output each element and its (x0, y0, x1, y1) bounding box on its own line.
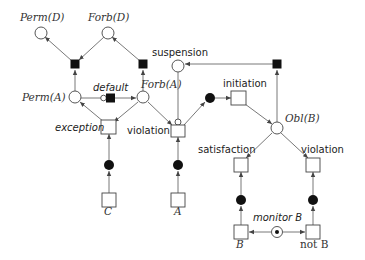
token-place-initiation (205, 93, 215, 103)
label-obl-b: Obl(B) (285, 112, 320, 124)
token-icon (275, 230, 279, 234)
label-not-b: not B (300, 238, 329, 250)
label-perm-d: Perm(D) (19, 11, 64, 23)
transition-violation-left (171, 125, 185, 137)
label-forb-a: Forb(A) (140, 78, 182, 90)
label-monitor-b: monitor B (253, 212, 302, 223)
label-a: A (173, 205, 182, 217)
inhibitor-circle-violation (175, 119, 181, 125)
label-c: C (104, 205, 112, 217)
transition-b (234, 225, 248, 239)
transition-violation-right (306, 158, 320, 172)
transition-satisfaction (234, 158, 248, 172)
inhibitor-circle-default (101, 95, 107, 101)
token-place-not-b (308, 195, 318, 205)
label-satisfaction: satisfaction (198, 144, 256, 155)
place-obl-b (271, 122, 283, 134)
petri-net-diagram: Perm(D) Forb(D) Perm(A) Forb(A) default … (0, 0, 365, 260)
transition-initiation (231, 91, 246, 105)
transition-not-b (306, 225, 320, 239)
label-suspension: suspension (152, 47, 208, 58)
token-place-c (104, 160, 114, 170)
label-perm-a: Perm(A) (21, 91, 66, 103)
place-perm-d (35, 27, 47, 39)
transition-perm-d (71, 60, 79, 68)
label-initiation: initiation (223, 78, 267, 89)
transition-default (107, 94, 115, 102)
label-exception: exception (55, 122, 104, 133)
label-violation-right: violation (301, 144, 344, 155)
place-perm-a (69, 91, 81, 103)
label-violation-left: violation (127, 125, 170, 136)
label-b: B (235, 238, 244, 250)
place-suspension (172, 60, 184, 72)
label-forb-d: Forb(D) (87, 11, 129, 23)
place-forb-a (137, 91, 149, 103)
token-place-a (173, 160, 183, 170)
transition-forb-d (139, 60, 147, 68)
place-forb-d (102, 27, 114, 39)
transition-suspension (273, 60, 281, 68)
token-place-b (236, 195, 246, 205)
label-default: default (93, 82, 129, 93)
